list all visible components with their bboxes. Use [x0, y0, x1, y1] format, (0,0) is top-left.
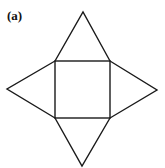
square-base: [55, 61, 110, 118]
left-triangle: [7, 61, 55, 118]
right-triangle: [110, 61, 157, 118]
pyramid-net-diagram: [0, 0, 165, 168]
top-triangle: [55, 12, 110, 61]
bottom-triangle: [55, 118, 110, 166]
